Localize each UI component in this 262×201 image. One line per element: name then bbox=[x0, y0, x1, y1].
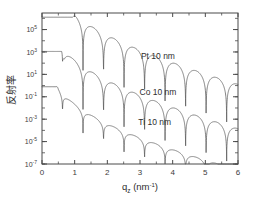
y-tick-label: 105 bbox=[26, 24, 37, 33]
x-tick-label: 6 bbox=[236, 168, 241, 177]
annotation-label: Co 10 nm bbox=[140, 87, 177, 97]
annotation-label: Pt 10 nm bbox=[141, 51, 175, 61]
x-tick-label: 3 bbox=[138, 168, 143, 177]
annotation-label: Ti 10 nm bbox=[138, 117, 171, 127]
x-tick-label: 1 bbox=[72, 168, 77, 177]
x-tick-label: 2 bbox=[105, 168, 110, 177]
y-tick-label: 10-3 bbox=[25, 114, 37, 123]
y-axis-title: 反射率 bbox=[5, 75, 17, 105]
reflectivity-chart: 0123456 10510310110-110-310-510-7 Pt 10 … bbox=[0, 0, 262, 201]
y-axis-tick-labels: 10510310110-110-310-510-7 bbox=[25, 24, 37, 167]
y-tick-label: 103 bbox=[26, 47, 37, 56]
x-axis-title: qz (nm-1) bbox=[122, 181, 158, 194]
x-tick-label: 5 bbox=[203, 168, 208, 177]
curve-pt bbox=[42, 16, 238, 122]
curve-co bbox=[42, 51, 238, 161]
chart-figure: 0123456 10510310110-110-310-510-7 Pt 10 … bbox=[0, 0, 262, 201]
x-axis-tick-labels: 0123456 bbox=[40, 168, 241, 177]
x-tick-label: 4 bbox=[170, 168, 175, 177]
y-tick-label: 10-1 bbox=[25, 91, 37, 100]
y-tick-label: 10-5 bbox=[25, 136, 37, 145]
x-tick-label: 0 bbox=[40, 168, 45, 177]
y-tick-label: 101 bbox=[26, 69, 37, 78]
y-tick-label: 10-7 bbox=[25, 159, 37, 168]
